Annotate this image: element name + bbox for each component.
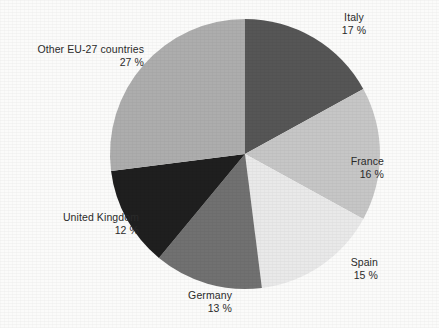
pie-label-other-eu-27-countries-value: 27 % xyxy=(8,56,144,69)
pie-label-united-kingdom-value: 12 % xyxy=(27,224,139,237)
pie-label-spain: Spain 15 % xyxy=(316,256,378,281)
pie-label-spain-value: 15 % xyxy=(316,269,378,282)
pie-slice-group xyxy=(110,19,380,289)
pie-label-germany: Germany 13 % xyxy=(152,289,232,314)
pie-label-other-eu-27-countries: Other EU-27 countries 27 % xyxy=(8,43,144,68)
pie-label-germany-value: 13 % xyxy=(152,302,232,315)
pie-label-italy: Italy 17 % xyxy=(322,11,386,36)
pie-label-italy-name: Italy xyxy=(322,11,386,24)
pie-label-france-name: France xyxy=(318,155,384,168)
pie-label-france: France 16 % xyxy=(318,155,384,180)
pie-label-france-value: 16 % xyxy=(318,168,384,181)
pie-chart-figure: Italy 17 % France 16 % Spain 15 % German… xyxy=(0,0,439,328)
pie-slice-other-eu-27-countries xyxy=(110,19,245,171)
pie-label-other-eu-27-countries-name: Other EU-27 countries xyxy=(8,43,144,56)
pie-label-united-kingdom: United Kingdom 12 % xyxy=(27,211,139,236)
pie-label-germany-name: Germany xyxy=(152,289,232,302)
pie-label-spain-name: Spain xyxy=(316,256,378,269)
pie-label-italy-value: 17 % xyxy=(322,24,386,37)
pie-label-united-kingdom-name: United Kingdom xyxy=(27,211,139,224)
